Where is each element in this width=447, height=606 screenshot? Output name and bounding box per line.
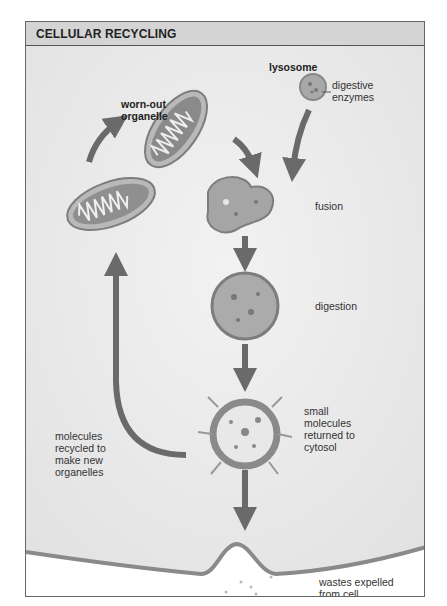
label-worn-out-organelle: worn-out organelle (121, 98, 168, 122)
label-lysosome: lysosome (269, 61, 317, 73)
label-digestion: digestion (315, 300, 357, 312)
label-wastes-expelled: wastes expelled from cell (319, 576, 394, 597)
label-fusion: fusion (315, 200, 343, 212)
label-digestive-enzymes: digestive enzymes (332, 79, 374, 103)
label-small-molecules: small molecules returned to cytosol (304, 405, 355, 453)
label-molecules-recycled: molecules recycled to make new organelle… (55, 430, 106, 478)
cellular-recycling-figure: CELLULAR RECYCLING (25, 21, 425, 597)
digestion-icon (212, 273, 278, 339)
diagram-artwork (26, 22, 425, 597)
